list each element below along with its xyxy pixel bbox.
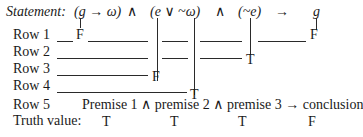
truth-value-premise-1: T	[102, 115, 111, 129]
truth-value-premise-2: T	[170, 115, 179, 129]
row-2-blank	[200, 58, 242, 59]
row-2-blank	[162, 58, 188, 59]
row-5-label: Row 5	[13, 98, 50, 112]
row-1-blank	[258, 41, 306, 42]
row-1-blank	[162, 41, 188, 42]
connector-not-e	[250, 18, 251, 54]
row-3-blank	[57, 75, 148, 76]
row-1-blank	[88, 41, 148, 42]
row-2-blank	[57, 58, 148, 59]
row-1-value-g: F	[76, 28, 84, 42]
truth-value-premise-3: T	[238, 115, 247, 129]
premise-1: (g → ω)	[74, 5, 121, 19]
implies-operator: →	[275, 5, 289, 19]
row-1-label: Row 1	[13, 28, 50, 42]
connector-not-w	[194, 18, 195, 95]
row-2-value-not-e: T	[246, 53, 255, 67]
premise-3: (~e)	[238, 5, 261, 19]
statement-label: Statement:	[6, 5, 66, 19]
row-4-label: Row 4	[13, 79, 50, 93]
row-1-value-conclusion: F	[310, 28, 318, 42]
truth-value-label: Truth value:	[13, 114, 81, 128]
premise-2: (e ∨ ~ω)	[150, 5, 200, 19]
and-operator-2: ∧	[215, 5, 225, 19]
and-operator-1: ∧	[127, 5, 137, 19]
row-2-label: Row 2	[13, 45, 50, 59]
row-4-blank	[57, 92, 187, 93]
row-1-blank	[57, 41, 73, 42]
row-1-blank	[200, 41, 242, 42]
row-5-summary: Premise 1 ∧ premise 2 ∧ premise 3 → conc…	[82, 98, 363, 112]
row-3-label: Row 3	[13, 62, 50, 76]
row-3-value-e: F	[152, 70, 160, 84]
conclusion: g	[313, 5, 320, 19]
truth-value-conclusion: F	[308, 115, 316, 129]
